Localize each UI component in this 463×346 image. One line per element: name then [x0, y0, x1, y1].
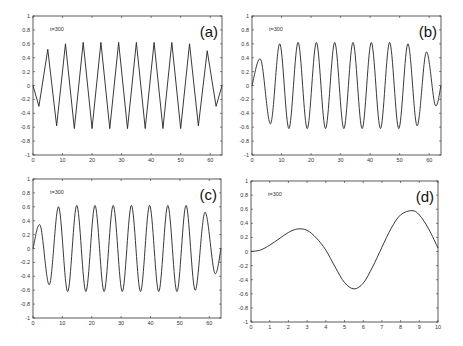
y-tick-label: 0.8 — [240, 192, 248, 198]
time-annotation: t=300 — [50, 189, 64, 195]
y-tick-label: 0.4 — [22, 55, 30, 61]
panel-d: -1-0.8-0.6-0.4-0.200.20.40.60.8101234567… — [239, 178, 442, 330]
y-tick-label: -0.6 — [21, 287, 30, 293]
y-tick-label: -0.2 — [21, 96, 30, 102]
y-tick-label: -0.2 — [21, 259, 30, 265]
x-tick-label: 0 — [31, 320, 34, 326]
data-curve — [33, 205, 221, 291]
x-tick-label: 30 — [338, 157, 344, 163]
axes-frame — [251, 181, 438, 322]
y-tick-label: -0.8 — [240, 138, 249, 144]
y-tick-label: 0.4 — [22, 218, 30, 224]
x-tick-label: 8 — [399, 324, 402, 330]
panel-label: (d) — [416, 188, 434, 205]
y-tick-label: 0.8 — [241, 27, 249, 33]
x-tick-label: 5 — [343, 324, 346, 330]
x-tick-label: 20 — [89, 320, 95, 326]
y-tick-label: 0.2 — [240, 234, 248, 240]
y-tick-label: -0.8 — [21, 301, 30, 307]
x-tick-label: 10 — [59, 320, 65, 326]
y-tick-label: -0.2 — [240, 96, 249, 102]
x-tick-label: 60 — [426, 157, 432, 163]
x-tick-label: 2 — [287, 324, 290, 330]
y-tick-label: -0.6 — [239, 291, 248, 297]
x-tick-label: 0 — [249, 324, 252, 330]
panel-label: (a) — [200, 23, 218, 40]
y-tick-label: 0.8 — [22, 190, 30, 196]
y-tick-label: 0 — [27, 83, 30, 89]
y-tick-label: -1 — [25, 152, 30, 158]
x-tick-label: 10 — [278, 157, 284, 163]
y-tick-label: 0.4 — [241, 55, 249, 61]
x-tick-label: 40 — [147, 320, 153, 326]
x-tick-label: 50 — [177, 320, 183, 326]
y-tick-label: -0.4 — [21, 273, 30, 279]
y-tick-label: 1 — [27, 13, 30, 19]
data-curve — [251, 211, 438, 289]
x-tick-label: 40 — [148, 157, 154, 163]
y-tick-label: -0.4 — [21, 110, 30, 116]
x-tick-label: 30 — [119, 157, 125, 163]
x-tick-label: 20 — [308, 157, 314, 163]
x-tick-label: 0 — [250, 157, 253, 163]
y-tick-label: -1 — [25, 315, 30, 321]
x-tick-label: 1 — [268, 324, 271, 330]
y-tick-label: 0 — [27, 246, 30, 252]
x-tick-label: 10 — [435, 324, 441, 330]
panel-b: -1-0.8-0.6-0.4-0.200.20.40.60.8101020304… — [240, 13, 441, 163]
y-tick-label: 0.6 — [240, 206, 248, 212]
x-tick-label: 6 — [362, 324, 365, 330]
y-tick-label: -1 — [243, 319, 248, 325]
x-tick-label: 60 — [206, 320, 212, 326]
y-tick-label: -0.8 — [21, 138, 30, 144]
y-tick-label: -0.6 — [21, 124, 30, 130]
time-annotation: t=300 — [269, 26, 283, 32]
panel-label: (c) — [200, 186, 218, 203]
y-tick-label: -0.4 — [240, 110, 249, 116]
panel-c: -1-0.8-0.6-0.4-0.200.20.40.60.8101020304… — [21, 176, 221, 326]
y-tick-label: 0.2 — [22, 232, 30, 238]
y-tick-label: 0.6 — [22, 41, 30, 47]
x-tick-label: 30 — [118, 320, 124, 326]
y-tick-label: -0.6 — [240, 124, 249, 130]
x-tick-label: 50 — [397, 157, 403, 163]
y-tick-label: -0.8 — [239, 305, 248, 311]
x-tick-label: 40 — [367, 157, 373, 163]
x-tick-label: 7 — [380, 324, 383, 330]
y-tick-label: -0.4 — [239, 277, 248, 283]
x-tick-label: 60 — [207, 157, 213, 163]
y-tick-label: 0 — [246, 83, 249, 89]
panel-label: (b) — [419, 23, 437, 40]
y-tick-label: 1 — [246, 13, 249, 19]
x-tick-label: 4 — [324, 324, 327, 330]
figure: -1-0.8-0.6-0.4-0.200.20.40.60.8101020304… — [0, 0, 463, 346]
y-tick-label: 0.2 — [241, 69, 249, 75]
panel-a: -1-0.8-0.6-0.4-0.200.20.40.60.8101020304… — [21, 13, 222, 163]
x-tick-label: 3 — [306, 324, 309, 330]
y-tick-label: -1 — [244, 152, 249, 158]
y-tick-label: -0.2 — [239, 263, 248, 269]
x-tick-label: 10 — [59, 157, 65, 163]
y-tick-label: 0 — [245, 249, 248, 255]
x-tick-label: 9 — [418, 324, 421, 330]
time-annotation: t=300 — [268, 191, 282, 197]
y-tick-label: 0.6 — [22, 204, 30, 210]
x-tick-label: 50 — [178, 157, 184, 163]
y-tick-label: 0.4 — [240, 220, 248, 226]
y-tick-label: 1 — [27, 176, 30, 182]
y-tick-label: 0.6 — [241, 41, 249, 47]
x-tick-label: 0 — [31, 157, 34, 163]
x-tick-label: 20 — [89, 157, 95, 163]
y-tick-label: 1 — [245, 178, 248, 184]
time-annotation: t=300 — [50, 26, 64, 32]
y-tick-label: 0.8 — [22, 27, 30, 33]
y-tick-label: 0.2 — [22, 69, 30, 75]
data-curve — [33, 42, 222, 128]
data-curve — [252, 42, 441, 128]
